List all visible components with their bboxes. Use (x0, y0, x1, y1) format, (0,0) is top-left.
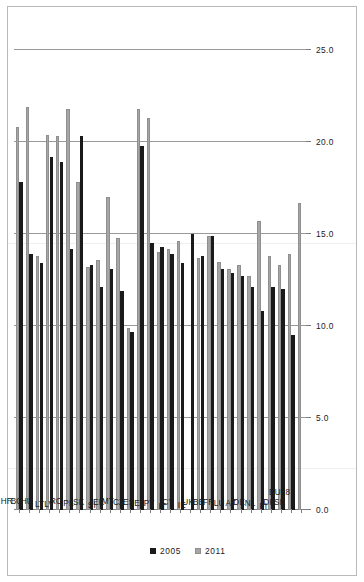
category-tick-mark (291, 509, 292, 513)
bar-2005 (160, 247, 163, 510)
bar-2005 (191, 234, 194, 510)
bar-2005 (19, 182, 22, 510)
bar-group (24, 50, 34, 510)
category-tick-mark (170, 509, 171, 513)
chart-stage: 0.05.010.015.020.025.0 EU28SEDKFINLDEATL… (0, 0, 350, 570)
category-tick-mark (39, 509, 40, 513)
bar-group (84, 50, 94, 510)
bar-2005 (120, 291, 123, 510)
category-label: PL (64, 499, 74, 508)
bar-2005 (241, 276, 244, 510)
category-tick-mark (140, 509, 141, 513)
legend-item-2005[interactable]: 2005 (150, 546, 181, 556)
bar-group (95, 50, 105, 510)
category-tick-mark (241, 509, 242, 513)
bar-group (125, 50, 135, 510)
value-axis-tick-label: 10.0 (316, 321, 334, 331)
bar-2005 (271, 287, 274, 510)
bar-group (105, 50, 115, 510)
legend-label: 2011 (205, 546, 225, 556)
bar-group (286, 50, 296, 510)
bar-2005 (50, 157, 53, 510)
category-tick-mark (261, 509, 262, 513)
bar-group (236, 50, 246, 510)
category-tick-mark (180, 509, 181, 513)
value-axis-tick-label: 15.0 (316, 229, 334, 239)
category-label: LV (45, 500, 55, 509)
category-label: EU28 (269, 488, 290, 497)
value-axis-tick-label: 25.0 (316, 45, 334, 55)
category-label: SK (73, 498, 84, 507)
value-axis-tick-label: 20.0 (316, 137, 334, 147)
category-tick-mark (110, 509, 111, 513)
category-tick-mark (29, 509, 30, 513)
bar-group (145, 50, 155, 510)
bar-2005 (40, 263, 43, 510)
bar-group (14, 50, 24, 510)
bar-2005 (110, 269, 113, 510)
bar-group (135, 50, 145, 510)
category-tick-mark (19, 509, 20, 513)
category-label: NL (244, 499, 255, 508)
category-tick-mark (59, 509, 60, 513)
bar-group (276, 50, 286, 510)
value-axis-tick (306, 141, 311, 142)
category-label: LT (35, 500, 44, 509)
bar-group (175, 50, 185, 510)
category-tick-mark (271, 509, 272, 513)
category-tick-mark (69, 509, 70, 513)
bar-2005 (90, 265, 93, 510)
bar-group (205, 50, 215, 510)
bar-2005 (29, 254, 32, 510)
category-label: FR (203, 498, 214, 507)
value-axis-tick (306, 417, 311, 418)
category-tick-mark (120, 509, 121, 513)
category-tick-mark (79, 509, 80, 513)
category-tick-mark (200, 509, 201, 513)
bar-2005 (140, 146, 143, 510)
category-label: PT (144, 499, 155, 508)
bar-2005 (80, 136, 83, 510)
bar-2005 (130, 332, 133, 510)
bar-group (115, 50, 125, 510)
category-tick-mark (100, 509, 101, 513)
value-axis-tick (306, 49, 311, 50)
category-label: CZ (113, 498, 124, 507)
category-tick-mark (90, 509, 91, 513)
category-label: HR (1, 497, 13, 506)
chart-legend: 20052011 (150, 546, 225, 556)
category-tick-mark (281, 509, 282, 513)
bar-group (34, 50, 44, 510)
value-axis-tick-label: 5.0 (316, 413, 329, 423)
value-axis-tick (306, 509, 311, 510)
bar-group (296, 50, 306, 510)
bar-group (155, 50, 165, 510)
bar-2005 (211, 236, 214, 510)
bar-2005 (281, 289, 284, 510)
bar-group (54, 50, 64, 510)
value-axis-tick (306, 233, 311, 234)
legend-item-2011[interactable]: 2011 (195, 546, 225, 556)
category-label: EL (134, 499, 144, 508)
bar-group (215, 50, 225, 510)
bar-2011 (298, 203, 301, 510)
value-axis-tick (306, 325, 311, 326)
bar-2005 (201, 256, 204, 510)
category-label: AT (225, 499, 235, 508)
category-tick-mark (130, 509, 131, 513)
legend-swatch-2005 (150, 548, 156, 554)
bar-group (74, 50, 84, 510)
bar-group (185, 50, 195, 510)
bar-group (44, 50, 54, 510)
bar-group (225, 50, 235, 510)
bar-2005 (251, 287, 254, 510)
legend-label: 2005 (160, 546, 181, 556)
legend-swatch-2011 (195, 548, 201, 554)
bar-2005 (221, 269, 224, 510)
category-label: SE (274, 498, 285, 507)
bar-group (256, 50, 266, 510)
bar-2005 (60, 162, 63, 510)
bar-2005 (170, 254, 173, 510)
category-tick-mark (160, 509, 161, 513)
bar-group (64, 50, 74, 510)
